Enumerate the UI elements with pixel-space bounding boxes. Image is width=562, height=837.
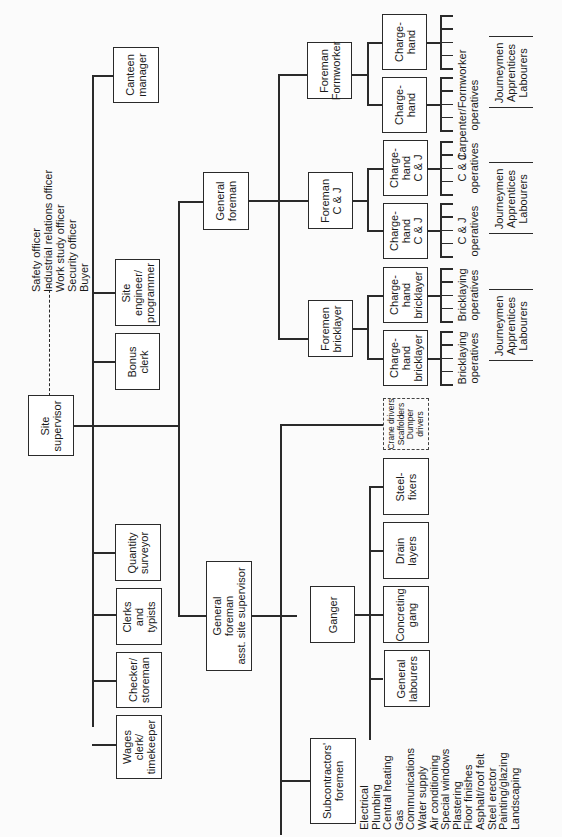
chargehand-cj-1-box[interactable]: Charge-handC & J xyxy=(383,140,428,196)
operative-link xyxy=(427,358,441,360)
operative-comb-tooth xyxy=(440,344,453,346)
operative-comb-tooth xyxy=(440,256,453,258)
operative-comb-tooth xyxy=(440,216,453,218)
chargehand-brick-2-box[interactable]: Charge-handbricklayer xyxy=(383,330,428,386)
staff-dashed-connector xyxy=(49,285,50,396)
root-connector xyxy=(73,425,179,427)
br-ch-link xyxy=(352,328,368,330)
operative-comb-tooth xyxy=(440,371,453,373)
operative-comb-tooth xyxy=(440,117,453,119)
gang-trunk xyxy=(369,486,371,740)
asst-site-supervisor-box[interactable]: Generalforemanasst. site supervisor xyxy=(206,561,252,671)
cj-operatives-1-label: C & Joperatives xyxy=(456,143,480,194)
operative-comb-tooth xyxy=(440,203,453,205)
chargehand-form-2-box[interactable]: Charge-hand xyxy=(382,77,427,133)
gf-branch xyxy=(178,201,204,203)
cj-operatives-2-label: C & Joperatives xyxy=(456,206,480,257)
fw-ch-link xyxy=(352,74,368,76)
canteen-manager-box[interactable]: Canteenmanager xyxy=(113,47,159,103)
grades-bracket-formwork: JourneymenApprenticesLabourers xyxy=(489,36,533,108)
bonus-branch xyxy=(92,361,115,363)
asst-to-ganger xyxy=(250,615,297,617)
general-foreman-box[interactable]: Generalforeman xyxy=(203,172,249,230)
fw-ch2 xyxy=(367,104,383,106)
operative-comb-tooth xyxy=(440,384,453,386)
checker-storeman-box[interactable]: Checker/storeman xyxy=(116,652,162,708)
operative-comb-tooth xyxy=(440,181,453,183)
operative-comb-tooth xyxy=(440,141,453,143)
operative-comb-tooth xyxy=(440,230,453,232)
operative-comb-tooth xyxy=(440,358,453,360)
fw-ch-trunk xyxy=(367,42,369,106)
chargehand-form-1-box[interactable]: Charge-hand xyxy=(382,14,427,70)
operative-comb-tooth xyxy=(440,243,453,245)
operative-comb-tooth xyxy=(440,295,453,297)
subcontractor-trades-list: ElectricalPlumbingCentral heatingGasComm… xyxy=(359,748,521,830)
asst-trunk xyxy=(280,424,282,835)
staff-officers-list: Safety officerIndustrial relations offic… xyxy=(30,170,90,292)
line-trunk xyxy=(178,201,180,617)
operative-link xyxy=(427,168,441,170)
operative-comb-tooth xyxy=(440,268,453,270)
fw-ch1 xyxy=(367,42,383,44)
grades-bracket-bricklaying: JourneymenApprenticesLabourers xyxy=(489,289,533,361)
operative-link xyxy=(427,230,441,232)
cj-ch1 xyxy=(367,168,383,170)
qs-branch xyxy=(92,552,115,554)
checker-branch xyxy=(92,680,116,682)
cj-ch-link xyxy=(352,200,368,202)
cj-ch-trunk xyxy=(367,168,369,232)
br-ch2 xyxy=(367,358,383,360)
drain-layers-box[interactable]: Drainlayers xyxy=(383,522,429,579)
steel-fixers-box[interactable]: Steel-fixers xyxy=(383,458,429,515)
ganger-box[interactable]: Ganger xyxy=(310,586,355,643)
operative-comb-tooth xyxy=(440,77,453,79)
steel-branch xyxy=(369,486,383,488)
chargehand-cj-2-box[interactable]: Charge-handC & J xyxy=(383,203,428,259)
site-supervisor-box[interactable]: Sitesupervisor xyxy=(28,395,74,456)
wages-clerk-box[interactable]: Wagesclerk/timekeeper xyxy=(116,715,162,779)
operative-comb-tooth xyxy=(440,154,453,156)
operative-comb-tooth xyxy=(440,55,453,57)
operative-comb-tooth xyxy=(440,281,453,283)
chargehand-brick-1-box[interactable]: Charge-handbricklayer xyxy=(383,267,428,323)
operative-link xyxy=(427,42,441,44)
org-chart-canvas: Sitesupervisor Safety officerIndustrial … xyxy=(0,0,562,837)
quantity-surveyor-box[interactable]: Quantitysurveyor xyxy=(115,524,161,581)
bonus-clerk-box[interactable]: Bonusclerk xyxy=(115,333,160,390)
bricklaying-operatives-1-label: Bricklayingoperatives xyxy=(456,268,480,321)
br-ch-trunk xyxy=(367,295,369,359)
concreting-gang-box[interactable]: Concretinggang xyxy=(383,586,429,643)
drain-branch xyxy=(369,550,383,552)
operative-comb-tooth xyxy=(440,90,453,92)
subcontractors-foremen-box[interactable]: Subcontractors'foremen xyxy=(310,738,356,824)
foreman-cj-box[interactable]: ForemanC & J xyxy=(308,172,353,229)
plant-operators-box[interactable]: Crane driversScaffoldersDumperdrivers xyxy=(383,398,429,450)
clerks-typists-box[interactable]: Clerksandtypists xyxy=(116,588,162,645)
bricklaying-operatives-2-label: Bricklayingoperatives xyxy=(456,331,480,384)
cj-ch2 xyxy=(367,230,383,232)
bricklayer-branch xyxy=(278,338,308,340)
foreman-formworker-box[interactable]: ForemanFormworker xyxy=(307,42,352,99)
operative-comb-tooth xyxy=(440,28,453,30)
operative-link xyxy=(427,104,441,106)
wages-branch xyxy=(92,744,116,746)
operative-comb-tooth xyxy=(440,68,453,70)
operative-comb-tooth xyxy=(440,194,453,196)
br-ch1 xyxy=(367,295,383,297)
clerks-branch xyxy=(92,614,116,616)
staff-trunk xyxy=(92,75,94,727)
subcon-branch xyxy=(280,780,310,782)
foreman-bricklayer-box[interactable]: Foremenbricklayer xyxy=(308,300,353,357)
plant-branch xyxy=(280,424,383,426)
asst-branch xyxy=(178,615,206,617)
operative-comb-tooth xyxy=(440,321,453,323)
operative-comb-tooth xyxy=(440,168,453,170)
operative-comb-tooth xyxy=(440,104,453,106)
site-engineer-box[interactable]: Siteengineer/programmer xyxy=(115,259,160,326)
general-labourers-box[interactable]: Generallabourers xyxy=(384,650,430,707)
canteen-branch xyxy=(92,75,114,77)
operative-link xyxy=(427,295,441,297)
foremen-trunk xyxy=(278,74,280,340)
labourers-branch xyxy=(369,678,383,680)
